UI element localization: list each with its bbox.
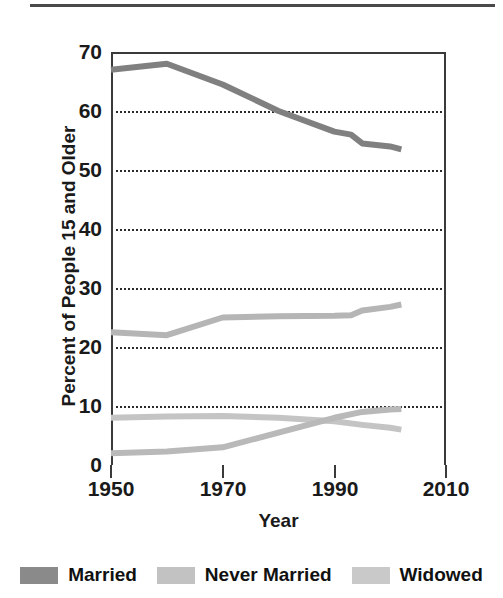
legend-label: Widowed: [400, 564, 483, 586]
x-tick-label: 1970: [178, 478, 268, 499]
legend-swatch-icon: [157, 567, 195, 584]
series-line-widowed: [111, 416, 401, 430]
legend-label: Never Married: [205, 564, 332, 586]
series-line-married: [111, 64, 401, 150]
series-line-never-married: [111, 305, 401, 336]
legend-item-never-married: Never Married: [157, 564, 332, 586]
chart-legend: Married Never Married Widowed: [0, 560, 503, 590]
legend-item-widowed: Widowed: [352, 564, 483, 586]
legend-swatch-icon: [352, 567, 390, 584]
legend-swatch-icon: [20, 567, 58, 584]
chart-figure: Percent of People 15 and Older 70 60 50 …: [0, 0, 503, 598]
x-tick-label: 1950: [66, 478, 156, 499]
series-lines: [0, 0, 503, 598]
x-axis-title: Year: [111, 510, 446, 532]
x-tick-label: 2010: [401, 478, 491, 499]
x-tick-label: 1990: [290, 478, 380, 499]
legend-label: Married: [68, 564, 137, 586]
legend-item-married: Married: [20, 564, 137, 586]
